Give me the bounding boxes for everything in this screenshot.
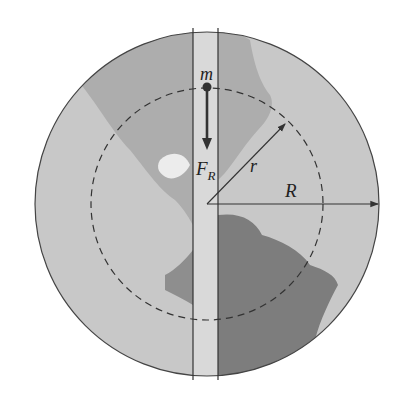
diagram: m FR r R xyxy=(0,0,399,396)
force-label: FR xyxy=(196,158,216,184)
tunnel xyxy=(193,0,218,396)
radius-r-label: r xyxy=(250,156,257,177)
force-symbol: F xyxy=(196,158,208,179)
force-subscript: R xyxy=(208,168,216,183)
globe xyxy=(0,0,399,396)
radius-R-label: R xyxy=(285,180,297,202)
mass-label: m xyxy=(200,64,213,85)
earth-tunnel-figure xyxy=(0,0,399,396)
